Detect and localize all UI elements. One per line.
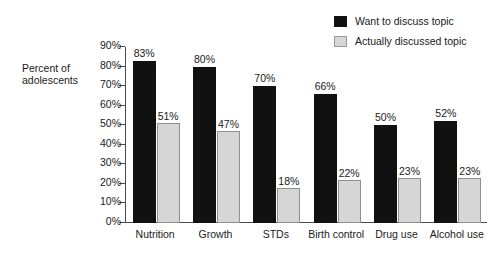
bar-group: 66%22%	[306, 47, 366, 223]
y-axis-title-line-1: Percent of	[22, 62, 96, 74]
bar-chart-figure: Want to discuss topic Actually discussed…	[0, 0, 504, 258]
bar-want-to-discuss[interactable]: 50%	[374, 125, 397, 223]
bar-group: 83%51%	[125, 47, 185, 223]
bar-value-label: 23%	[399, 165, 420, 177]
chart-legend: Want to discuss topic Actually discussed…	[334, 11, 504, 51]
legend-label-series-0: Want to discuss topic	[355, 16, 454, 27]
bar-want-to-discuss[interactable]: 66%	[314, 94, 337, 223]
y-axis-tick-label: 70%	[100, 78, 121, 90]
y-axis-tick-label: 40%	[100, 137, 121, 149]
y-axis-tick-label: 20%	[100, 176, 121, 188]
y-axis-title: Percent of adolescents	[22, 62, 96, 86]
bar-actually-discussed[interactable]: 18%	[277, 188, 300, 223]
y-axis-tick-label: 60%	[100, 98, 121, 110]
y-axis-tick-label: 90%	[100, 39, 121, 51]
bar-actually-discussed[interactable]: 22%	[338, 180, 361, 223]
bar-value-label: 51%	[158, 110, 179, 122]
bar-group: 52%23%	[427, 47, 487, 223]
legend-label-series-1: Actually discussed topic	[355, 36, 466, 47]
bar-value-label: 18%	[278, 175, 299, 187]
bar-actually-discussed[interactable]: 51%	[157, 123, 180, 223]
bar-value-label: 52%	[435, 107, 456, 119]
y-axis-tick-label: 0%	[106, 215, 121, 227]
x-axis-category-label: Birth control	[308, 228, 364, 240]
bar-actually-discussed[interactable]: 23%	[458, 178, 481, 223]
bar-value-label: 22%	[339, 167, 360, 179]
bar-want-to-discuss[interactable]: 70%	[253, 86, 276, 223]
bar-actually-discussed[interactable]: 23%	[398, 178, 421, 223]
legend-item-want-to-discuss: Want to discuss topic	[334, 11, 504, 31]
bar-value-label: 83%	[134, 47, 155, 59]
y-axis-tick-label: 30%	[100, 156, 121, 168]
bar-want-to-discuss[interactable]: 80%	[193, 67, 216, 223]
x-axis-category-label: Alcohol use	[430, 228, 484, 240]
x-axis-category-label: Nutrition	[136, 228, 175, 240]
bar-value-label: 50%	[375, 111, 396, 123]
bar-want-to-discuss[interactable]: 52%	[434, 121, 457, 223]
bar-group: 50%23%	[366, 47, 426, 223]
x-axis-category-label: STDs	[263, 228, 289, 240]
x-axis-category-label: Growth	[199, 228, 233, 240]
bar-value-label: 66%	[315, 80, 336, 92]
legend-swatch-icon-series-0	[334, 16, 347, 27]
bar-value-label: 47%	[218, 118, 239, 130]
y-axis-tick-label: 50%	[100, 117, 121, 129]
bar-value-label: 80%	[194, 53, 215, 65]
plot-area: 90%80%70%60%50%40%30%20%10%0% 83%51%80%4…	[125, 47, 487, 223]
bar-value-label: 23%	[459, 165, 480, 177]
bar-actually-discussed[interactable]: 47%	[217, 131, 240, 223]
bar-value-label: 70%	[254, 72, 275, 84]
y-axis-tick-label: 10%	[100, 195, 121, 207]
bar-group: 70%18%	[246, 47, 306, 223]
x-axis-category-label: Drug use	[375, 228, 418, 240]
bar-want-to-discuss[interactable]: 83%	[133, 61, 156, 223]
y-axis-tick-label: 80%	[100, 59, 121, 71]
y-axis-title-line-2: adolescents	[22, 74, 96, 86]
legend-swatch-icon-series-1	[334, 36, 347, 47]
bar-group: 80%47%	[185, 47, 245, 223]
